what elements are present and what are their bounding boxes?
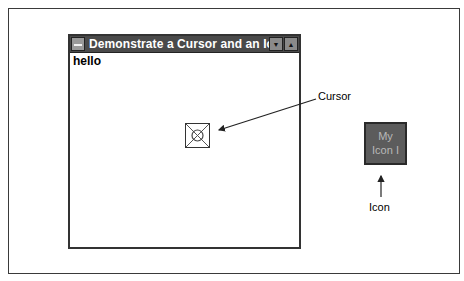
cursor-arrow [219, 99, 316, 130]
icon-label: Icon [369, 201, 390, 213]
annotation-arrows [0, 0, 464, 281]
cursor-label: Cursor [318, 90, 351, 102]
